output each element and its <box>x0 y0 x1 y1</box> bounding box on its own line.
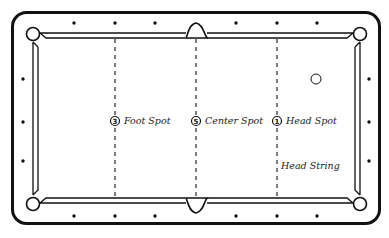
right-rail <box>355 42 360 195</box>
pocket-bottom-side <box>186 198 207 213</box>
foot-spot-label: Foot Spot <box>123 115 171 126</box>
center-spot-number: 5 <box>194 118 199 126</box>
head-spot-number: 1 <box>275 118 280 126</box>
left-rail <box>33 42 38 195</box>
bottom-left-rail <box>40 198 186 203</box>
pocket-top-left <box>27 28 40 41</box>
head-spot-label: Head Spot <box>285 115 337 126</box>
top-right-rail <box>207 33 353 38</box>
pocket-top-right <box>354 28 367 41</box>
head-string-label: Head String <box>280 160 340 171</box>
cue-ball <box>311 74 321 84</box>
spot-head: 1 Head Spot <box>273 115 337 126</box>
pool-table-diagram: 3 Foot Spot 5 Center Spot 1 Head Spot He… <box>0 0 389 238</box>
top-left-rail <box>40 33 186 38</box>
bottom-right-rail <box>207 198 353 203</box>
pocket-top-side <box>186 23 207 38</box>
pocket-bottom-left <box>27 198 40 211</box>
spot-center: 5 Center Spot <box>192 115 264 126</box>
foot-spot-number: 3 <box>113 118 118 126</box>
center-spot-label: Center Spot <box>205 115 263 126</box>
spot-foot: 3 Foot Spot <box>111 115 171 126</box>
pocket-bottom-right <box>354 198 367 211</box>
